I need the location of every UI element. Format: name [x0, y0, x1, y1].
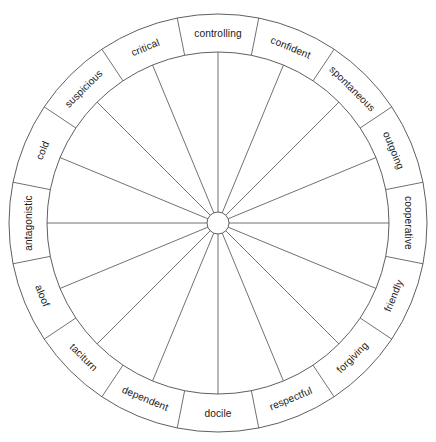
sector-spoke: [226, 102, 339, 215]
sector-label-friendly: friendly: [382, 277, 405, 313]
sector-label-outgoing: outgoing: [381, 130, 407, 171]
sector-label-docile: docile: [204, 408, 231, 419]
sector-divider: [177, 18, 184, 55]
sector-label-critical: critical: [129, 37, 161, 59]
sector-divider: [386, 182, 423, 189]
wheel-svg: controllingconfidentspontaneousoutgoingc…: [0, 0, 436, 442]
sector-divider: [44, 318, 76, 339]
sector-label-respectful: respectful: [268, 385, 314, 412]
sector-divider: [251, 391, 258, 428]
sector-spoke: [153, 233, 214, 381]
hub-circle: [207, 212, 229, 234]
sector-label-cold: cold: [34, 139, 52, 161]
sector-divider: [313, 49, 334, 81]
sector-divider: [360, 107, 392, 128]
sector-spoke: [222, 233, 283, 381]
sector-spoke: [97, 231, 210, 344]
sector-divider: [102, 49, 123, 81]
sector-divider: [251, 18, 258, 55]
sector-divider: [13, 256, 50, 263]
sector-spoke: [222, 65, 283, 213]
sector-label-taciturn: taciturn: [68, 341, 100, 373]
sector-spoke: [60, 227, 208, 288]
sector-label-controlling: controlling: [194, 28, 242, 39]
sector-divider: [360, 318, 392, 339]
sector-label-dependent: dependent: [121, 384, 171, 413]
sector-spoke: [228, 227, 376, 288]
sector-divider: [44, 107, 76, 128]
sector-label-cooperative: cooperative: [403, 196, 414, 250]
sector-label-antagonistic: antagonistic: [23, 195, 34, 251]
sector-spoke: [153, 65, 214, 213]
sector-spoke: [60, 158, 208, 219]
sector-divider: [13, 182, 50, 189]
sector-spoke: [226, 231, 339, 344]
sector-spoke: [228, 158, 376, 219]
sector-spoke: [97, 102, 210, 215]
sector-divider: [386, 256, 423, 263]
center-hub: [207, 212, 229, 234]
sector-label-aloof: aloof: [33, 283, 52, 308]
sector-divider: [102, 365, 123, 397]
sector-divider: [313, 365, 334, 397]
sector-label-confident: confident: [269, 34, 312, 60]
circumplex-wheel-diagram: controllingconfidentspontaneousoutgoingc…: [0, 0, 436, 442]
sector-label-forgiving: forgiving: [335, 339, 371, 375]
sector-divider: [177, 391, 184, 428]
